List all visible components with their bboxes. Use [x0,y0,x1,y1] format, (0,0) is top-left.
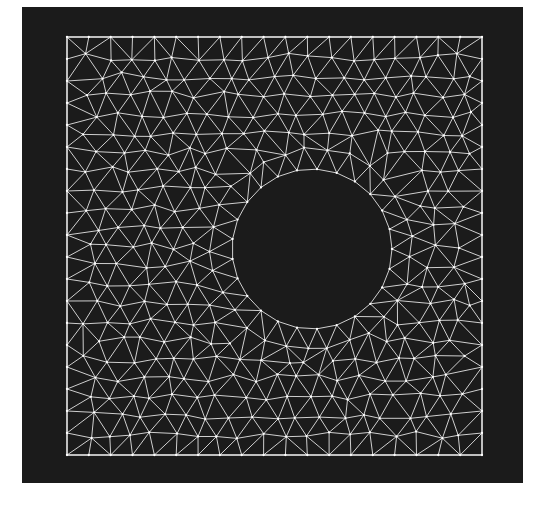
fem-mesh-figure [0,0,550,505]
figure-page [0,0,550,505]
